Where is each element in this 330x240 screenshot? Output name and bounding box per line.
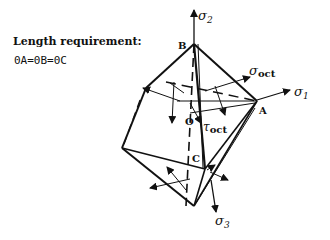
sigma2-label: σ2 — [198, 8, 213, 25]
sigma3-axis — [211, 180, 216, 212]
sigma1-label: σ1 — [294, 84, 309, 101]
point-c-label: C — [192, 153, 200, 164]
point-a-label: A — [258, 105, 267, 116]
point-o-label: O — [185, 116, 194, 127]
point-b-label: B — [178, 40, 186, 51]
tau-oct-label: τoct — [203, 120, 227, 135]
sigma1-axis — [257, 90, 290, 100]
sigma-oct-label: σoct — [249, 63, 276, 79]
stress-arrows — [143, 77, 250, 190]
octahedral-stress-diagram: σ2 σ1 σ3 σoct τoct B A C O — [0, 0, 330, 240]
sigma3-label: σ3 — [215, 213, 230, 230]
